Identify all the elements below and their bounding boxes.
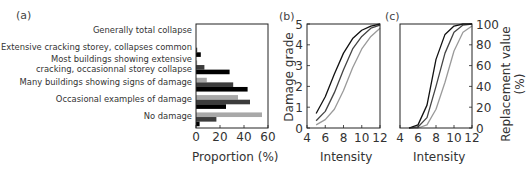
- x-axis-title-c: Intensity: [413, 150, 465, 164]
- series-line-medium: [409, 24, 472, 128]
- series-line-light: [409, 26, 472, 128]
- y-axis-title-c: Replacement value (%): [499, 14, 527, 154]
- plot-frame: [400, 24, 472, 128]
- series-line-dark: [409, 24, 472, 128]
- x-tick-label: 10: [446, 131, 461, 145]
- x-tick-label: 6: [414, 131, 422, 145]
- x-tick-label: 4: [396, 131, 404, 145]
- y-tick-label: 100: [476, 18, 499, 32]
- y-tick-label: 80: [476, 38, 491, 52]
- y-tick-label: 40: [476, 80, 491, 94]
- y-tick-label: 20: [476, 101, 491, 115]
- y-tick-label: 60: [476, 59, 491, 73]
- x-tick-label: 8: [432, 131, 440, 145]
- y-tick-label: 0: [476, 122, 484, 136]
